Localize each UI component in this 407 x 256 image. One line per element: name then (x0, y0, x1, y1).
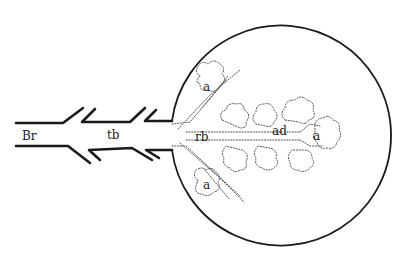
label-alveolar-duct: ad (272, 124, 287, 138)
label-respiratory-bronchiole: rb (195, 130, 209, 144)
label-alveolus-upper: a (203, 80, 210, 94)
label-alveolus-lower: a (203, 178, 210, 192)
label-alveolus-right: a (313, 129, 320, 143)
acinus-diagram: Br tb rb ad a a a (0, 0, 407, 256)
label-bronchus: Br (22, 129, 37, 143)
label-terminal-bronchiole: tb (107, 128, 120, 142)
airway-walls (16, 108, 172, 163)
